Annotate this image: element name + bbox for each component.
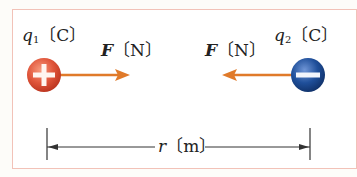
force2-label: F〔N〕: [205, 42, 266, 59]
force1-label: F〔N〕: [101, 42, 162, 59]
charge2-label: q2〔C〕: [274, 27, 338, 45]
force-arrow-right: [58, 69, 130, 81]
force-arrow-left: [222, 69, 292, 81]
positive-charge-icon: [27, 58, 61, 92]
charge1-label: q1〔C〕: [22, 27, 86, 45]
negative-charge-icon: [291, 58, 325, 92]
distance-label: r〔m〕: [158, 138, 216, 155]
